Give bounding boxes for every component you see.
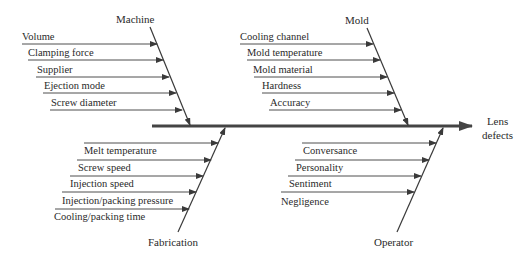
cause-fabrication-2: Injection speed — [70, 178, 134, 190]
operator-bone — [397, 128, 443, 232]
category-fabrication: Fabrication — [148, 236, 198, 248]
fabrication-bone — [178, 128, 225, 232]
cause-machine-1: Clamping force — [28, 47, 94, 59]
effect-label: Lens defects — [482, 114, 513, 142]
cause-fabrication-0: Melt temperature — [84, 145, 157, 157]
category-machine: Machine — [116, 13, 154, 25]
cause-machine-3: Ejection mode — [44, 80, 105, 92]
cause-mold-1: Mold temperature — [247, 47, 323, 59]
effect-line2: defects — [482, 128, 513, 142]
effect-line1: Lens — [482, 114, 513, 128]
category-operator: Operator — [374, 236, 413, 248]
cause-operator-0: Conversance — [303, 145, 357, 157]
cause-fabrication-1: Screw speed — [78, 162, 131, 174]
cause-mold-0: Cooling channel — [240, 31, 309, 43]
cause-mold-3: Hardness — [262, 80, 301, 92]
cause-operator-2: Sentiment — [289, 178, 332, 190]
cause-mold-2: Mold material — [253, 64, 313, 76]
cause-mold-4: Accuracy — [270, 97, 310, 109]
cause-operator-1: Personality — [296, 162, 343, 174]
cause-operator-3: Negligence — [281, 196, 329, 208]
cause-fabrication-4: Cooling/packing time — [54, 211, 145, 223]
cause-machine-0: Volume — [22, 31, 54, 43]
cause-fabrication-3: Injection/packing pressure — [62, 195, 173, 207]
cause-machine-4: Screw diameter — [51, 97, 117, 109]
category-mold: Mold — [345, 14, 369, 26]
cause-machine-2: Supplier — [37, 64, 73, 76]
